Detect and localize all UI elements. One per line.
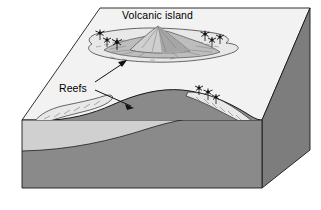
volcanic-island-block-diagram: Volcanic island Reefs — [0, 0, 321, 210]
volcanic-island-label: Volcanic island — [122, 9, 193, 21]
reefs-label: Reefs — [59, 82, 87, 94]
diagram-canvas — [0, 0, 321, 210]
